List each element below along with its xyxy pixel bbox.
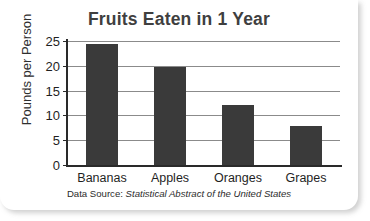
y-axis-tick-label: 10 bbox=[46, 108, 60, 123]
source-publication: Statistical Abstract of the United State… bbox=[126, 188, 291, 199]
chart-card: Fruits Eaten in 1 Year Pounds per Person… bbox=[0, 0, 358, 210]
chart-title: Fruits Eaten in 1 Year bbox=[0, 9, 358, 30]
y-axis-tick-label: 0 bbox=[53, 158, 60, 173]
gridline bbox=[68, 41, 340, 42]
x-axis-tick-label: Bananas bbox=[77, 171, 126, 185]
y-axis-line bbox=[66, 39, 68, 167]
y-axis-tick-label: 15 bbox=[46, 83, 60, 98]
x-axis-tick-label: Oranges bbox=[214, 171, 262, 185]
bar bbox=[154, 67, 186, 165]
bar bbox=[222, 105, 254, 166]
x-axis-tick-label: Grapes bbox=[286, 171, 327, 185]
x-axis-line bbox=[66, 165, 342, 167]
x-axis-tick-label: Apples bbox=[151, 171, 189, 185]
y-axis-tick-label: 20 bbox=[46, 58, 60, 73]
y-axis-tick-label: 5 bbox=[53, 133, 60, 148]
plot-area: 0510152025 BananasApplesOrangesGrapes bbox=[68, 41, 340, 165]
y-axis-tick-label: 25 bbox=[46, 34, 60, 49]
bar bbox=[290, 126, 322, 165]
bar bbox=[86, 44, 118, 165]
y-axis-title: Pounds per Person bbox=[19, 5, 34, 135]
source-note: Data Source: Statistical Abstract of the… bbox=[0, 188, 358, 199]
source-prefix: Data Source: bbox=[67, 188, 123, 199]
